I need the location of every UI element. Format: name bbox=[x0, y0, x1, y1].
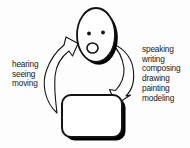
label-moving: moving bbox=[12, 79, 38, 89]
communication-cycle-diagram: hearing seeing moving speaking writing c… bbox=[0, 0, 190, 148]
output-modes-label-list: speaking writing composing drawing paint… bbox=[142, 45, 180, 103]
left-eye-icon bbox=[87, 32, 91, 36]
rounded-box-icon bbox=[62, 95, 122, 137]
input-modes-label-list: hearing seeing moving bbox=[12, 60, 38, 89]
label-modeling: modeling bbox=[142, 94, 180, 104]
face-with-open-mouth-icon bbox=[77, 8, 115, 62]
right-eye-icon bbox=[101, 31, 105, 35]
mouth-icon bbox=[87, 43, 98, 53]
